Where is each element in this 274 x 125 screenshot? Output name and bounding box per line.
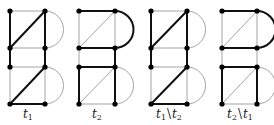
edge-upper-diagonal [222, 11, 257, 48]
vertex-6 [148, 101, 153, 106]
vertex-1 [184, 8, 189, 13]
vertex-0 [148, 8, 153, 13]
vertex-0 [7, 8, 12, 13]
graph-t2-minus-t1 [219, 8, 274, 106]
vertex-6 [76, 101, 81, 106]
edge-lower-diagonal [151, 67, 187, 104]
edge-upper-arc [45, 11, 64, 48]
edge-lower-arc [187, 67, 206, 104]
vertex-4 [7, 64, 12, 69]
vertex-7 [112, 101, 117, 106]
vertex-3 [42, 45, 47, 50]
vertex-2 [148, 45, 153, 50]
label-t1-minus-t2: t1\t2 [156, 107, 182, 125]
vertex-7 [254, 101, 259, 106]
vertex-3 [112, 45, 117, 50]
vertex-2 [219, 45, 224, 50]
edge-upper-arc [187, 11, 206, 48]
vertex-0 [219, 8, 224, 13]
edge-lower-arc [45, 67, 64, 104]
vertex-5 [42, 64, 47, 69]
edge-lower-diagonal [10, 67, 45, 104]
vertex-4 [76, 64, 81, 69]
edge-lower-arc [257, 67, 274, 104]
vertex-3 [184, 45, 189, 50]
graph-t1-minus-t2 [148, 8, 205, 106]
vertex-5 [254, 64, 259, 69]
edge-upper-diagonal [151, 11, 187, 48]
vertex-2 [76, 45, 81, 50]
vertex-7 [184, 101, 189, 106]
vertex-2 [7, 45, 12, 50]
vertex-0 [76, 8, 81, 13]
edge-upper-diagonal [79, 11, 115, 48]
label-t1: t1 [23, 107, 33, 125]
vertex-1 [112, 8, 117, 13]
edge-upper-diagonal [10, 11, 45, 48]
vertex-6 [7, 101, 12, 106]
label-t2: t2 [92, 107, 102, 125]
edge-lower-arc [115, 67, 134, 104]
graph-t1 [7, 8, 63, 106]
edge-lower-diagonal [79, 67, 115, 104]
vertex-1 [254, 8, 259, 13]
vertex-5 [184, 64, 189, 69]
vertex-6 [219, 101, 224, 106]
edge-upper-arc [115, 11, 134, 48]
edge-upper-arc [257, 11, 274, 48]
vertex-3 [254, 45, 259, 50]
label-t2-minus-t1: t2\t1 [227, 107, 253, 125]
edge-lower-diagonal [222, 67, 257, 104]
vertex-1 [42, 8, 47, 13]
vertex-4 [148, 64, 153, 69]
vertex-7 [42, 101, 47, 106]
vertex-4 [219, 64, 224, 69]
vertex-5 [112, 64, 117, 69]
graph-t2 [76, 8, 133, 106]
